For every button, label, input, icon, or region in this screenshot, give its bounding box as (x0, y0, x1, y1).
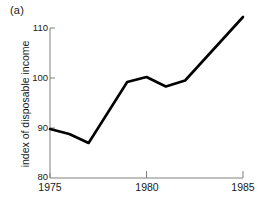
plot-area (0, 0, 259, 201)
data-series-line (50, 17, 243, 143)
figure-panel-a: (a) index of disposable income 110 100 9… (0, 0, 259, 201)
